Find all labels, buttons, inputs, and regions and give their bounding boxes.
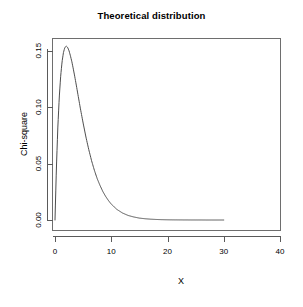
y-axis: 0.000.050.100.15 Chi-square <box>19 42 53 227</box>
x-tick-labels: 010203040 <box>53 247 285 256</box>
x-tick-label: 10 <box>107 247 116 256</box>
y-tick-labels: 0.000.050.100.15 <box>34 42 43 227</box>
x-tick-label: 30 <box>219 247 228 256</box>
x-axis: 010203040 X <box>53 237 285 287</box>
y-tick-marks <box>48 52 53 221</box>
x-tick-label: 0 <box>53 247 58 256</box>
x-tick-label: 40 <box>276 247 285 256</box>
x-tick-label: 20 <box>163 247 172 256</box>
chart-plot-area: 0.000.050.100.15 Chi-square 010203040 X <box>0 0 303 307</box>
plot-frame <box>53 39 281 231</box>
y-tick-label: 0.15 <box>34 42 43 58</box>
y-tick-label: 0.10 <box>34 99 43 115</box>
y-tick-label: 0.00 <box>34 212 43 228</box>
y-tick-label: 0.05 <box>34 155 43 171</box>
x-axis-title: X <box>178 276 184 286</box>
chart-container: Theoretical distribution 0.000.050.100.1… <box>0 0 303 307</box>
y-axis-title: Chi-square <box>19 112 29 156</box>
chi-square-density-curve <box>55 46 224 220</box>
x-tick-marks <box>56 237 281 242</box>
